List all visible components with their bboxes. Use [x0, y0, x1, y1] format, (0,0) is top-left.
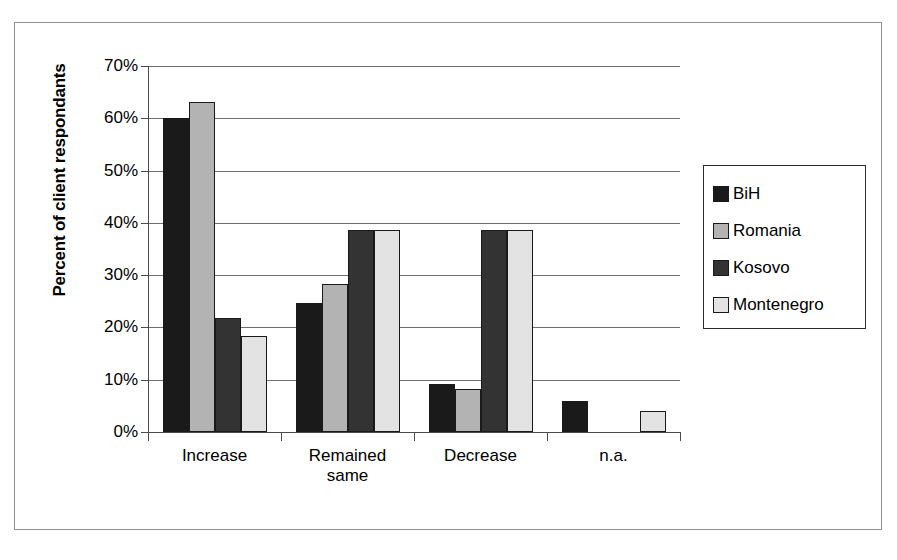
x-axis-tick — [547, 432, 548, 441]
legend-item-label: Montenegro — [733, 295, 824, 315]
legend-item-montenegro[interactable]: Montenegro — [713, 286, 865, 323]
bar-bih-remained-same — [296, 303, 322, 432]
legend-item-label: Kosovo — [733, 258, 790, 278]
bar-kosovo-decrease — [481, 230, 507, 432]
x-axis-category-label: Increase — [148, 446, 281, 466]
bar-montenegro-increase — [241, 336, 267, 432]
y-axis-tick-label: 60% — [68, 109, 138, 126]
plot-area — [148, 66, 680, 432]
x-axis-label-line: Remained — [281, 446, 414, 466]
x-axis-label-line: Increase — [148, 446, 281, 466]
x-axis-tick — [414, 432, 415, 441]
y-axis-tick — [141, 275, 149, 276]
x-axis-tick — [148, 432, 149, 441]
gridline-30% — [148, 275, 680, 276]
legend-swatch-icon — [713, 297, 729, 313]
bar-kosovo-remained-same — [348, 230, 374, 432]
gridline-70% — [148, 66, 680, 67]
y-axis-tick — [141, 66, 149, 67]
legend-item-bih[interactable]: BiH — [713, 175, 865, 212]
bar-bih-n-a — [562, 401, 588, 432]
legend-swatch-icon — [713, 260, 729, 276]
y-axis-tick-label: 20% — [68, 318, 138, 335]
bar-kosovo-increase — [215, 318, 241, 432]
bar-romania-increase — [189, 102, 215, 432]
x-axis-tick — [281, 432, 282, 441]
gridline-50% — [148, 171, 680, 172]
gridline-40% — [148, 223, 680, 224]
x-axis-category-label: n.a. — [547, 446, 680, 466]
legend-swatch-icon — [713, 186, 729, 202]
x-axis-category-label: Decrease — [414, 446, 547, 466]
y-axis-tick-labels: 0%10%20%30%40%50%60%70% — [62, 0, 138, 560]
legend-swatch-icon — [713, 223, 729, 239]
y-axis-tick — [141, 380, 149, 381]
gridline-60% — [148, 118, 680, 119]
legend-item-kosovo[interactable]: Kosovo — [713, 249, 865, 286]
bar-montenegro-decrease — [507, 230, 533, 432]
x-axis-label-line: Decrease — [414, 446, 547, 466]
y-axis-tick-label: 30% — [68, 266, 138, 283]
chart-legend: BiHRomaniaKosovoMontenegro — [703, 165, 866, 329]
legend-item-label: Romania — [733, 221, 801, 241]
x-axis-label-line: same — [281, 466, 414, 486]
x-axis-label-line: n.a. — [547, 446, 680, 466]
x-axis-category-label: Remainedsame — [281, 446, 414, 485]
x-axis-tick — [680, 432, 681, 441]
y-axis-tick-label: 0% — [68, 423, 138, 440]
legend-item-label: BiH — [733, 184, 760, 204]
y-axis-tick — [141, 223, 149, 224]
y-axis-tick-label: 50% — [68, 162, 138, 179]
y-axis-tick — [141, 327, 149, 328]
bar-romania-remained-same — [322, 284, 348, 432]
y-axis-tick-label: 40% — [68, 214, 138, 231]
y-axis-tick-label: 10% — [68, 371, 138, 388]
bar-romania-decrease — [455, 389, 481, 432]
y-axis-tick — [141, 171, 149, 172]
legend-item-romania[interactable]: Romania — [713, 212, 865, 249]
bar-montenegro-n-a — [640, 411, 666, 432]
bar-bih-increase — [163, 118, 189, 432]
bar-montenegro-remained-same — [374, 230, 400, 432]
bar-bih-decrease — [429, 384, 455, 432]
y-axis-tick — [141, 118, 149, 119]
y-axis-tick-label: 70% — [68, 57, 138, 74]
